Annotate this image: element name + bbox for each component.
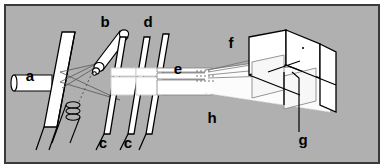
- label-a: a: [26, 67, 35, 84]
- diagram-canvas: a b c c d e f g h: [0, 0, 384, 168]
- prism-right-plate: [320, 44, 336, 112]
- prism-lower-left-panel: [252, 55, 284, 98]
- label-g: g: [298, 131, 307, 148]
- block-1-body: [111, 77, 136, 95]
- probe-tip-point: [93, 72, 97, 76]
- beam-bar-mid: [157, 73, 212, 79]
- optical-block-1: [111, 68, 136, 95]
- label-h: h: [207, 109, 216, 126]
- label-c-second: c: [124, 134, 132, 151]
- beam-bar-e: [157, 68, 212, 95]
- beam-bar-upper: [157, 68, 212, 72]
- beam-bar-lower: [157, 80, 212, 95]
- block-1-top: [111, 68, 136, 76]
- label-b: b: [100, 13, 109, 30]
- label-c-first: c: [99, 134, 107, 151]
- optical-diagram-figure: a b c c d e f g h: [0, 0, 384, 168]
- prism-center-dot: [302, 47, 304, 49]
- label-e: e: [174, 60, 182, 77]
- source-cylinder-cap: [11, 75, 17, 91]
- label-d: d: [143, 13, 152, 30]
